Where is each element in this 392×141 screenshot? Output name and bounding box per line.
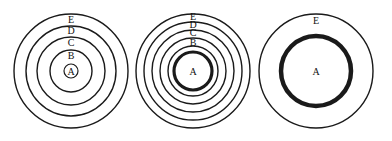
label-b: B	[190, 37, 197, 48]
label-c: C	[68, 37, 75, 48]
label-e: E	[313, 15, 319, 26]
panel-1-five-nested-rings: EDCBA	[14, 14, 128, 128]
panel-2-tight-rings-thick-core: EDCBA	[136, 11, 250, 128]
label-a: A	[67, 66, 75, 77]
label-a: A	[312, 66, 320, 77]
label-b: B	[68, 50, 75, 61]
concentric-circles-figure: EDCBA EDCBA EA	[0, 0, 392, 141]
label-d: D	[67, 25, 74, 36]
label-a: A	[189, 66, 197, 77]
label-e: E	[68, 14, 74, 25]
panel-3-outer-ring-thick-core: EA	[259, 14, 373, 128]
